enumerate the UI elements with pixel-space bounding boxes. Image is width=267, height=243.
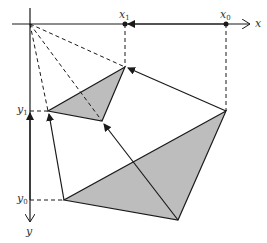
arrow-bottomleft-to-left	[49, 114, 64, 200]
large-shaded-triangle	[64, 111, 226, 220]
small-shaded-triangle	[48, 67, 125, 121]
arrow-right-to-top	[128, 68, 226, 111]
projection-line-left	[30, 24, 48, 111]
projection-diagram: x y x1 x0 y1 y0	[0, 0, 267, 243]
y0-label: y0	[16, 192, 28, 206]
x0-point	[224, 22, 229, 27]
x0-label: x0	[220, 8, 231, 22]
x-axis-label: x	[255, 17, 262, 30]
x1-label: x1	[119, 8, 130, 22]
y1-label: y1	[16, 103, 28, 117]
x1-point	[123, 22, 128, 27]
y-axis-label: y	[25, 225, 33, 238]
projection-line-top	[30, 24, 125, 67]
